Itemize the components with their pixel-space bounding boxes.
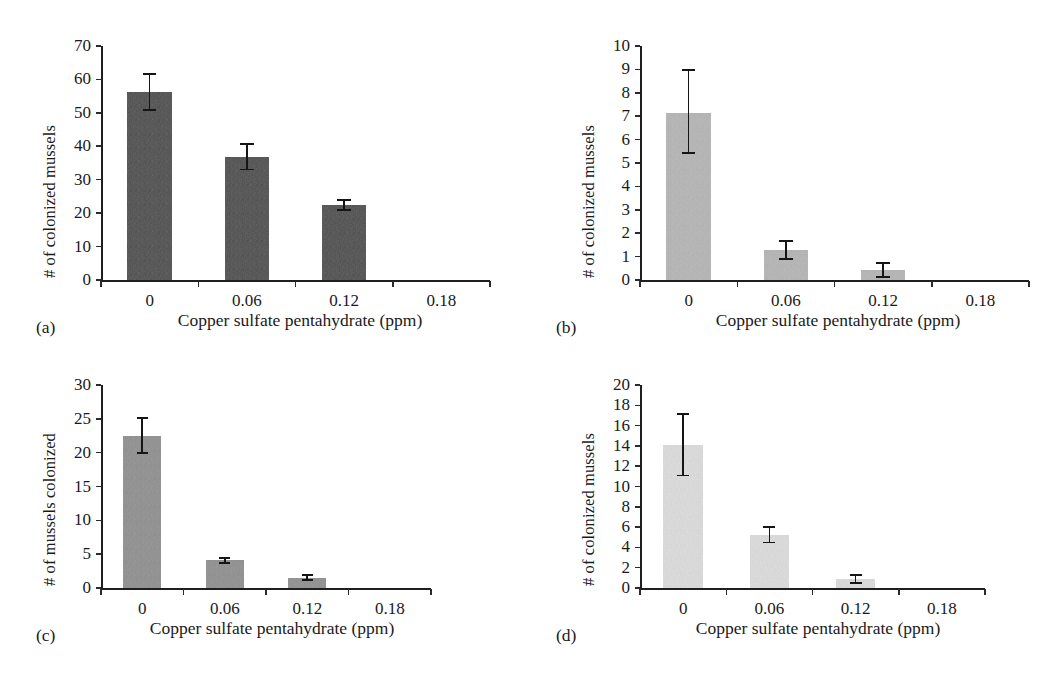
panel-label: (d) (556, 625, 576, 646)
y-tick-label: 18 (574, 396, 630, 413)
y-tick (635, 425, 640, 427)
error-bar-cap-bottom (763, 542, 775, 544)
error-bar-cap-bottom (850, 582, 862, 584)
y-tick (635, 465, 640, 467)
y-axis-line (640, 385, 642, 589)
error-bar-stem (682, 413, 684, 476)
x-axis-label: Copper sulfate pentahydrate (ppm) (598, 618, 1038, 639)
x-tick-label: 0.06 (719, 600, 819, 617)
chart-panel-d: 0246810121416182000.060.120.18# of colon… (0, 0, 1063, 687)
x-tick-label: 0.12 (806, 600, 906, 617)
y-tick (635, 567, 640, 569)
y-tick-label: 20 (574, 376, 630, 393)
y-tick (635, 445, 640, 447)
y-tick (635, 547, 640, 549)
x-tick-origin (639, 589, 641, 595)
y-tick (635, 526, 640, 528)
x-tick (726, 589, 728, 595)
x-tick-label: 0.18 (892, 600, 992, 617)
error-bar-cap-top (763, 526, 775, 528)
y-tick (635, 506, 640, 508)
y-tick (635, 384, 640, 386)
error-bar-cap-top (677, 413, 689, 415)
x-tick (984, 589, 986, 595)
y-tick (635, 486, 640, 488)
x-tick-label: 0 (633, 600, 733, 617)
x-tick (898, 589, 900, 595)
x-tick (812, 589, 814, 595)
error-bar-cap-top (850, 574, 862, 576)
error-bar-cap-bottom (677, 475, 689, 477)
y-axis-label: # of colonized mussels (579, 433, 599, 586)
figure-root: 01020304050607000.060.120.18# of coloniz… (0, 0, 1063, 687)
y-tick-label: 16 (574, 417, 630, 434)
y-tick (635, 405, 640, 407)
